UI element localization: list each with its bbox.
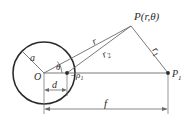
label-ray-r: r <box>90 35 99 47</box>
label-radius-a: a <box>30 52 35 63</box>
label-dim-d: d <box>52 79 58 90</box>
label-ray-r2-sub: 2 <box>106 51 113 60</box>
label-angle-theta: θ <box>56 62 61 72</box>
offset-point-marker <box>65 71 69 75</box>
label-offset-rho-sub: 1 <box>80 75 83 81</box>
label-point-p1: P1 <box>171 68 182 82</box>
right-point-marker <box>166 71 170 75</box>
dim-d-arrow-right <box>62 88 67 92</box>
label-ray-r2: r2 <box>100 46 113 62</box>
label-point-p1-base: P <box>171 68 178 79</box>
dim-f-arrow-right <box>162 107 168 111</box>
label-point-p: P(r,θ) <box>133 10 160 23</box>
label-offset-rho: −ρ1 <box>70 70 83 81</box>
label-point-p1-sub: 1 <box>178 74 182 82</box>
figure-container: P(r,θ) P1 O a r r2 r1 θ d f −ρ1 <box>0 0 196 137</box>
label-ray-r1: r1 <box>148 44 163 58</box>
dim-d-arrow-left <box>44 88 49 92</box>
dim-f-arrow-left <box>44 107 50 111</box>
label-offset-rho-base: −ρ <box>70 70 81 80</box>
geometry-diagram-svg: P(r,θ) P1 O a r r2 r1 θ d f −ρ1 <box>0 0 196 137</box>
ray-r1-line <box>131 26 168 73</box>
label-dim-f: f <box>104 97 109 109</box>
label-origin: O <box>34 71 41 82</box>
